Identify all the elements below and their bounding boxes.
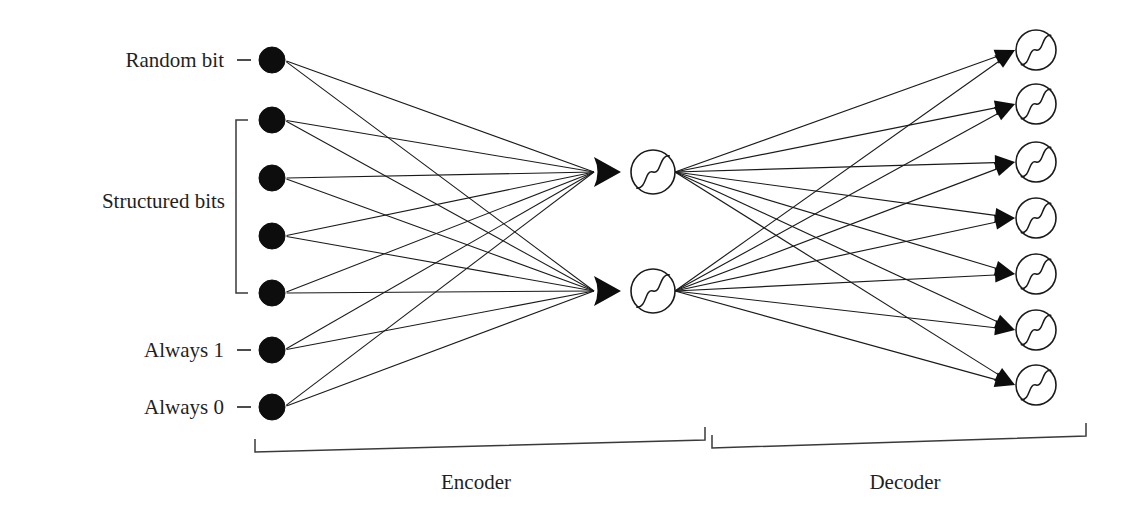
decoder-edge bbox=[675, 275, 995, 291]
decoder-edge bbox=[675, 291, 995, 328]
structured-bits-bracket-group: Structured bits bbox=[102, 120, 248, 293]
input-node[interactable] bbox=[259, 394, 285, 420]
decoder-edge bbox=[675, 108, 995, 172]
hidden-neurons-group bbox=[631, 150, 675, 313]
input-nodes-group bbox=[259, 47, 285, 420]
decoder-arrowhead bbox=[994, 162, 1015, 176]
network-canvas: Random bitAlways 1Always 0 Structured bi… bbox=[0, 0, 1124, 520]
encoder-edge bbox=[286, 291, 594, 406]
encoder-edge bbox=[287, 236, 594, 291]
input-node[interactable] bbox=[259, 280, 285, 306]
encoder-edge bbox=[287, 172, 594, 235]
input-node[interactable] bbox=[259, 165, 285, 191]
encoder-edge bbox=[287, 291, 594, 293]
decoder-edge bbox=[675, 291, 996, 380]
encoder-merged-arrowhead bbox=[594, 276, 621, 306]
encoder-arrowheads-group bbox=[594, 157, 621, 306]
encoder-label: Encoder bbox=[441, 470, 511, 494]
autoencoder-diagram: Random bitAlways 1Always 0 Structured bi… bbox=[0, 0, 1124, 520]
structured-bits-bracket bbox=[236, 120, 248, 293]
input-node[interactable] bbox=[259, 223, 285, 249]
decoder-label: Decoder bbox=[869, 470, 940, 494]
input-label: Always 0 bbox=[144, 395, 224, 419]
input-node[interactable] bbox=[259, 337, 285, 363]
decoder-bracket bbox=[712, 423, 1086, 448]
structured-bits-label: Structured bits bbox=[102, 189, 225, 213]
input-label: Random bit bbox=[125, 48, 224, 72]
encoder-merged-arrowhead bbox=[594, 157, 621, 187]
input-labels-group: Random bitAlways 1Always 0 bbox=[125, 48, 251, 419]
input-node[interactable] bbox=[259, 107, 285, 133]
decoder-edge bbox=[675, 163, 995, 172]
encoder-bracket bbox=[255, 427, 705, 452]
encoder-edge bbox=[286, 172, 594, 405]
decoder-edge bbox=[675, 172, 995, 215]
decoder-edge bbox=[675, 172, 997, 322]
encoder-edge bbox=[287, 120, 594, 172]
decoder-arrowheads-group bbox=[994, 50, 1015, 387]
decoder-edge bbox=[675, 57, 996, 172]
output-neurons-group bbox=[1016, 30, 1056, 405]
encoder-edge bbox=[286, 62, 594, 291]
input-label: Always 1 bbox=[144, 338, 224, 362]
section-brackets-group: EncoderDecoder bbox=[255, 423, 1086, 494]
input-node[interactable] bbox=[259, 47, 285, 73]
encoder-edge bbox=[287, 291, 594, 350]
decoder-edge bbox=[675, 172, 996, 268]
encoder-edge bbox=[286, 61, 594, 172]
encoder-edges-group bbox=[286, 61, 594, 406]
decoder-edges-group bbox=[675, 57, 999, 380]
encoder-edge bbox=[286, 172, 594, 349]
